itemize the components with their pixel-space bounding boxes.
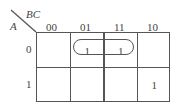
column-variable-label: BC — [26, 9, 40, 20]
cell-a1-bc00 — [37, 67, 71, 102]
row-label-1: 1 — [26, 79, 32, 90]
grouping-loop — [73, 39, 134, 55]
cell-a0-bc00 — [37, 33, 71, 68]
cell-a1-bc01 — [71, 67, 105, 102]
cell-a0-bc10 — [138, 33, 172, 68]
cell-a1-bc11 — [104, 67, 138, 102]
row-variable-label: A — [10, 21, 17, 32]
cell-a1-bc10: 1 — [138, 67, 172, 102]
row-label-0: 0 — [26, 44, 32, 55]
